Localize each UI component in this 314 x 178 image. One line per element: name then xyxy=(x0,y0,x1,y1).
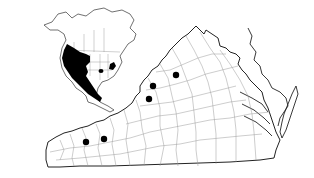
occurrence-dot xyxy=(101,136,107,142)
distribution-map xyxy=(0,0,314,178)
north-america-inset xyxy=(44,8,136,112)
occurrence-dot xyxy=(150,83,156,89)
species-range-patch-central xyxy=(99,69,104,73)
occurrence-dot xyxy=(173,72,179,78)
eastern-shore xyxy=(280,86,298,138)
occurrence-dot xyxy=(146,96,152,102)
occurrence-dot xyxy=(83,139,89,145)
